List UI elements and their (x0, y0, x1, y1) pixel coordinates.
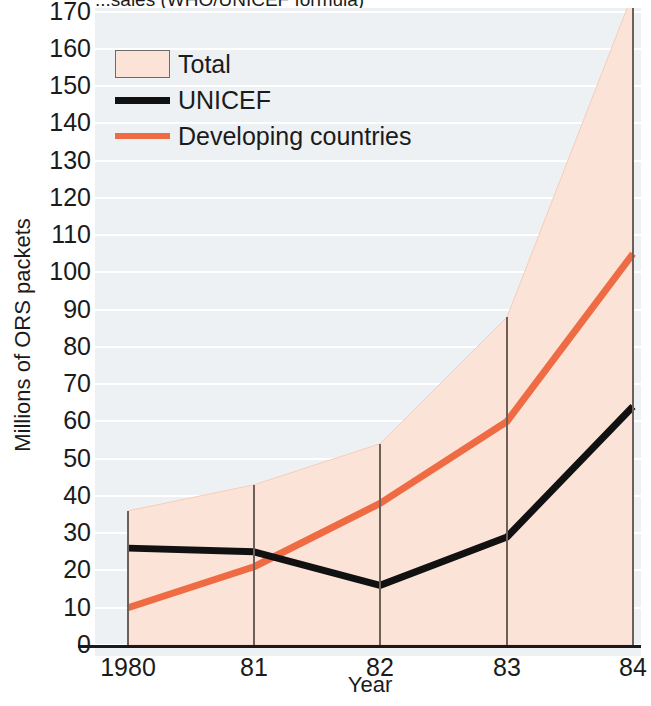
legend-label-developing-countries: Developing countries (178, 124, 411, 149)
y-axis-tick-label: 160 (17, 36, 91, 61)
legend-item-unicef: UNICEF (115, 82, 445, 118)
legend-swatch-unicef-icon (115, 97, 170, 104)
y-axis-tick-label: 10 (17, 595, 91, 620)
year-marker-line (379, 444, 381, 645)
legend-item-developing-countries: Developing countries (115, 118, 445, 154)
x-axis-title: Year (100, 672, 640, 698)
year-marker-line (253, 485, 255, 645)
year-marker-line (632, 8, 634, 645)
y-axis-tick-label: 20 (17, 557, 91, 582)
y-axis-tick-label: 140 (17, 110, 91, 135)
x-axis-line (95, 645, 641, 648)
chart-figure: ...sales (WHO/UNICEF formula) 0102030405… (0, 0, 651, 706)
legend-label-total: Total (178, 52, 231, 77)
y-axis-tick-label: 0 (17, 632, 91, 657)
y-axis-tick-label: 170 (17, 0, 91, 24)
y-axis-tick-label: 150 (17, 73, 91, 98)
legend-swatch-developing-countries-icon (115, 133, 170, 139)
legend-swatch-total-icon (115, 50, 170, 78)
y-axis-title: Millions of ORS packets (10, 145, 36, 525)
year-marker-line (506, 317, 508, 645)
year-marker-line (127, 511, 129, 645)
legend-label-unicef: UNICEF (178, 88, 271, 113)
legend-item-total: Total (115, 46, 445, 82)
chart-legend: Total UNICEF Developing countries (115, 46, 445, 154)
